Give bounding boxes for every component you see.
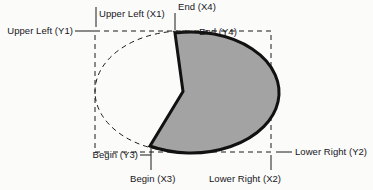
label-lower-right-y2: Lower Right (Y2)	[295, 146, 367, 157]
label-begin-y3: Begin (Y3)	[60, 149, 138, 160]
label-upper-left-y1: Upper Left (Y1)	[0, 25, 73, 36]
pie-wedge-shape	[150, 32, 279, 153]
diagram-canvas: Upper Left (Y1) Upper Left (X1) End (X4)…	[0, 0, 373, 190]
label-end-y4: End (Y4)	[199, 26, 237, 37]
label-lower-right-x2: Lower Right (X2)	[209, 173, 281, 184]
label-end-x4: End (X4)	[178, 1, 216, 12]
label-upper-left-x1: Upper Left (X1)	[99, 8, 165, 19]
label-begin-x3: Begin (X3)	[130, 173, 175, 184]
